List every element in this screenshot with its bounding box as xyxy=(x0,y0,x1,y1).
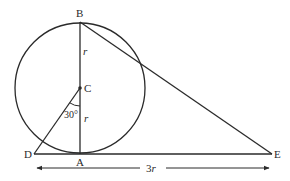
angle-arc xyxy=(70,103,80,106)
segment-CD xyxy=(34,88,80,154)
center-point xyxy=(78,86,82,90)
label-dimension: 3r xyxy=(146,162,157,174)
segment-BE xyxy=(80,22,272,154)
label-B: B xyxy=(76,7,83,19)
label-r-CA: r xyxy=(84,112,89,124)
label-A: A xyxy=(76,156,84,168)
label-E: E xyxy=(274,148,281,160)
label-C: C xyxy=(84,82,91,94)
label-D: D xyxy=(24,148,32,160)
label-angle: 30° xyxy=(64,109,78,120)
geometry-diagram: B C A D E r r 30° 3r xyxy=(0,0,290,181)
label-r-BC: r xyxy=(83,45,88,57)
